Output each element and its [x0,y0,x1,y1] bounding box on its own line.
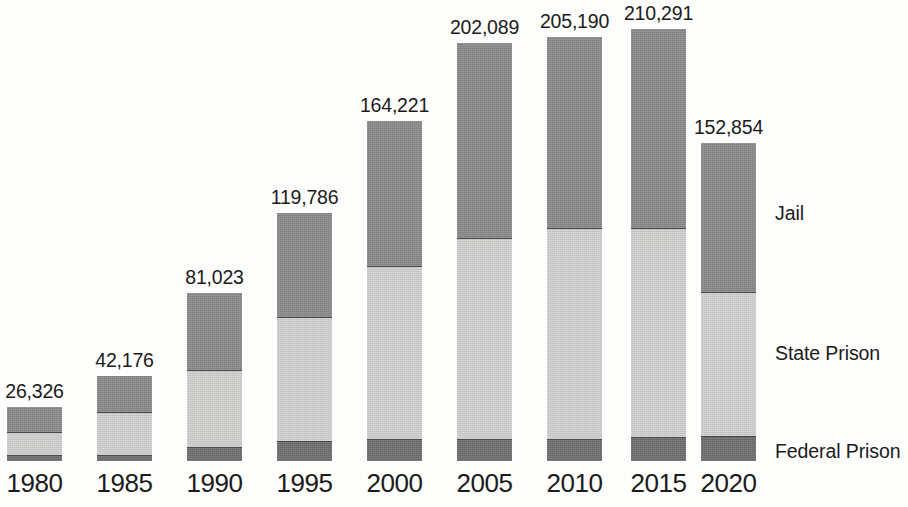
bar-segment-jail[interactable] [277,213,332,317]
bar-group [186,292,243,462]
bar-segment-state-prison[interactable] [547,228,602,439]
bar-segment-federal-prison[interactable] [631,437,686,461]
bar-segment-federal-prison[interactable] [457,439,512,461]
stacked-bar[interactable] [6,406,63,462]
bar-value-label: 42,176 [95,349,153,372]
chart-root: 26,326198042,176198581,0231990119,786199… [0,0,908,507]
bar-segment-state-prison[interactable] [631,228,686,437]
bar-segment-jail[interactable] [7,407,62,432]
bar-segment-state-prison[interactable] [457,238,512,439]
bar-value-label: 205,190 [540,10,609,33]
bar-segment-state-prison[interactable] [97,412,152,455]
series-label-state-prison: State Prison [775,342,880,365]
bar-segment-federal-prison[interactable] [701,436,756,461]
stacked-bar[interactable] [700,142,757,462]
bar-segment-jail[interactable] [97,376,152,412]
plot-area: 26,326198042,176198581,0231990119,786199… [0,0,908,507]
stacked-bar[interactable] [546,36,603,462]
bar-group [630,28,687,462]
bar-segment-jail[interactable] [457,43,512,238]
bar-segment-state-prison[interactable] [187,370,242,447]
x-axis-label-2005: 2005 [456,468,513,499]
bar-segment-federal-prison[interactable] [547,439,602,461]
bar-segment-federal-prison[interactable] [7,455,62,461]
bar-value-label: 210,291 [624,2,693,25]
x-axis-label-1990: 1990 [186,468,243,499]
stacked-bar[interactable] [276,212,333,462]
x-axis-label-2000: 2000 [366,468,423,499]
bar-group [6,406,63,462]
bar-segment-jail[interactable] [631,29,686,228]
bar-segment-state-prison[interactable] [367,266,422,439]
x-axis-label-1985: 1985 [96,468,153,499]
bar-group [546,36,603,462]
bar-segment-state-prison[interactable] [7,432,62,455]
bar-value-label: 81,023 [185,266,243,289]
bar-value-label: 152,854 [694,116,763,139]
bar-segment-federal-prison[interactable] [97,455,152,461]
stacked-bar[interactable] [630,28,687,462]
stacked-bar[interactable] [366,120,423,462]
x-axis-label-1995: 1995 [276,468,333,499]
series-label-jail: Jail [775,202,804,225]
x-axis-label-2010: 2010 [546,468,603,499]
stacked-bar[interactable] [96,375,153,462]
x-axis-label-1980: 1980 [6,468,63,499]
bar-segment-state-prison[interactable] [277,317,332,441]
bar-group [456,42,513,462]
bar-segment-jail[interactable] [367,121,422,266]
stacked-bar[interactable] [456,42,513,462]
stacked-bar[interactable] [186,292,243,462]
bar-segment-jail[interactable] [187,293,242,370]
bar-group [276,212,333,462]
bar-group [700,142,757,462]
bar-segment-federal-prison[interactable] [187,447,242,461]
bar-group [366,120,423,462]
bar-group [96,375,153,462]
bar-segment-state-prison[interactable] [701,292,756,436]
bar-value-label: 164,221 [360,94,429,117]
bar-value-label: 202,089 [450,16,519,39]
bar-value-label: 119,786 [271,186,339,209]
x-axis-label-2015: 2015 [630,468,687,499]
bar-value-label: 26,326 [5,380,63,403]
bar-segment-federal-prison[interactable] [277,441,332,461]
series-label-federal-prison: Federal Prison [775,440,900,463]
bar-segment-jail[interactable] [701,143,756,292]
bar-segment-federal-prison[interactable] [367,439,422,461]
x-axis-label-2020: 2020 [700,468,757,499]
bar-segment-jail[interactable] [547,37,602,228]
